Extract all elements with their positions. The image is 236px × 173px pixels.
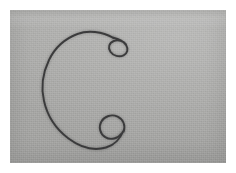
photo-frame: Thin dark wire bent into an open C shape… [0,0,236,173]
wire-lower-loop [100,115,125,138]
photo-plate [10,10,226,163]
wire-drawing [10,10,226,163]
image-caption: Thin dark wire bent into an open C shape… [0,0,1,1]
wire-layer [10,10,226,163]
